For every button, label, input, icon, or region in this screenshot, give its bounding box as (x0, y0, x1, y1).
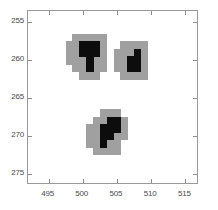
cluster-halo-cell (114, 147, 121, 155)
cluster-halo-cell (141, 72, 148, 80)
cluster-halo-cell (100, 64, 107, 72)
cluster-core-cell (134, 64, 141, 72)
y-tick-mark (28, 98, 32, 99)
cluster-core-cell (114, 124, 121, 132)
x-tick-mark (49, 11, 50, 15)
y-tick-mark (193, 98, 197, 99)
y-tick-mark (193, 60, 197, 61)
x-tick-mark (117, 179, 118, 183)
y-tick-mark (28, 60, 32, 61)
y-tick-mark (193, 22, 197, 23)
y-tick-label: 270 (0, 131, 24, 139)
figure: 255260265270275 495500505510515 (0, 0, 218, 210)
y-tick-mark (28, 174, 32, 175)
y-tick-label: 260 (0, 55, 24, 63)
x-tick-mark (151, 179, 152, 183)
x-tick-label: 500 (67, 190, 97, 198)
x-tick-label: 515 (169, 190, 199, 198)
cluster-halo-cell (93, 72, 100, 80)
x-tick-mark (117, 11, 118, 15)
cluster-halo-cell (120, 132, 127, 140)
y-tick-label: 255 (0, 17, 24, 25)
x-tick-label: 495 (33, 190, 63, 198)
y-tick-label: 275 (0, 169, 24, 177)
x-tick-mark (185, 179, 186, 183)
x-tick-mark (49, 179, 50, 183)
x-tick-mark (185, 11, 186, 15)
cluster-core-cell (86, 64, 93, 72)
y-tick-label: 265 (0, 93, 24, 101)
y-tick-mark (28, 136, 32, 137)
y-tick-mark (193, 174, 197, 175)
cluster-core-cell (93, 49, 100, 57)
x-tick-mark (83, 11, 84, 15)
y-tick-mark (193, 136, 197, 137)
x-tick-label: 510 (135, 190, 165, 198)
cluster-core-cell (107, 132, 114, 140)
x-tick-mark (151, 11, 152, 15)
plot-axes (27, 10, 198, 184)
x-tick-label: 505 (101, 190, 131, 198)
x-tick-mark (83, 179, 84, 183)
plot-area (28, 11, 197, 183)
y-tick-mark (28, 22, 32, 23)
cluster-core-cell (100, 140, 107, 148)
